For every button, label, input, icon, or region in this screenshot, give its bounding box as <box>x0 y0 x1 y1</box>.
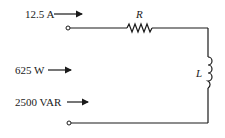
real-power-annotation: 625 W <box>15 64 71 76</box>
current-label: 12.5 A <box>25 8 54 20</box>
inductor: L <box>195 57 212 88</box>
inductor-label: L <box>195 67 202 79</box>
real-power-label: 625 W <box>15 64 45 76</box>
resistor: R <box>127 8 152 32</box>
reactive-power-label: 2500 VAR <box>15 96 62 108</box>
current-annotation: 12.5 A <box>25 8 82 20</box>
resistor-label: R <box>135 8 143 20</box>
reactive-power-annotation: 2500 VAR <box>15 96 88 108</box>
circuit-diagram: 12.5 A 625 W 2500 VAR R L <box>0 0 225 138</box>
bottom-terminal-icon <box>67 121 71 125</box>
resistor-icon <box>127 24 152 32</box>
top-terminal-icon <box>66 26 70 30</box>
inductor-icon <box>208 57 212 88</box>
